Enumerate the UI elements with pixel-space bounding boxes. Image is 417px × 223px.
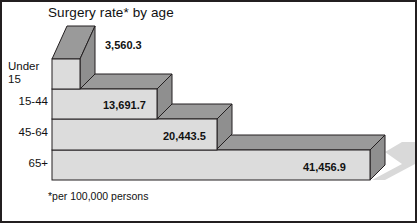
category-label-45-64: 45-64 xyxy=(4,126,48,139)
value-label-15-44: 13,691.7 xyxy=(103,99,146,111)
category-label-under-15: Under 15 xyxy=(4,60,52,85)
value-label-45-64: 20,443.5 xyxy=(163,130,206,142)
value-label-under-15: 3,560.3 xyxy=(105,39,142,51)
bar-under-15[interactable] xyxy=(52,26,95,89)
category-label-65plus: 65+ xyxy=(4,157,48,170)
chart-footnote: *per 100,000 persons xyxy=(48,190,148,202)
bar-under-15-front xyxy=(52,59,80,89)
chart-stage: Surgery rate* by age xyxy=(2,2,415,221)
category-label-15-44: 15-44 xyxy=(4,95,48,108)
bars-group xyxy=(2,2,415,221)
chart-frame: Surgery rate* by age xyxy=(0,0,417,223)
value-label-65plus: 41,456.9 xyxy=(303,161,346,173)
